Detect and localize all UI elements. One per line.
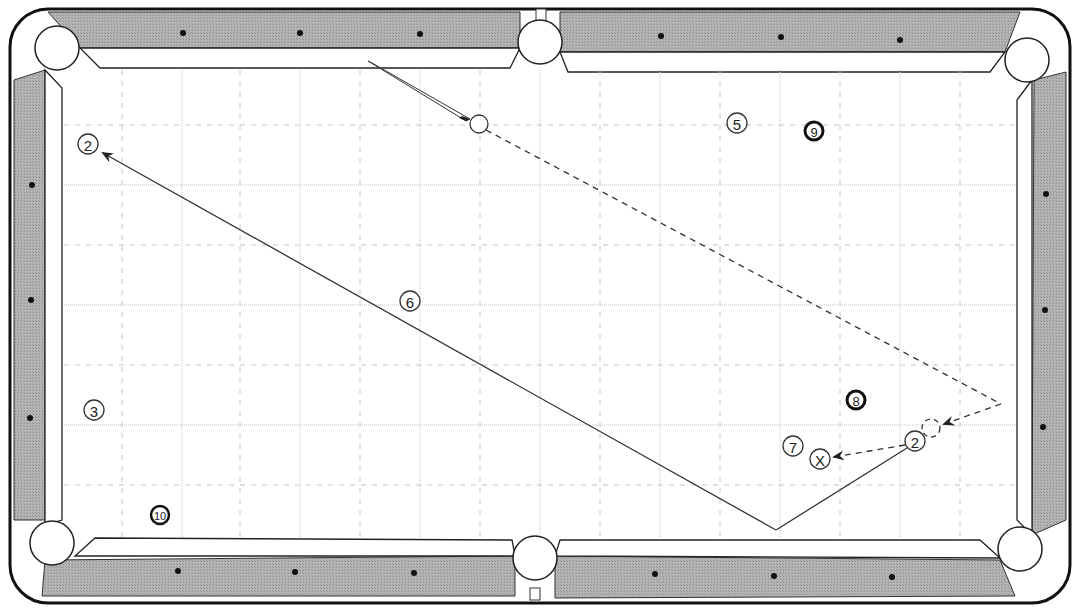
pocket-top-middle (518, 20, 562, 64)
bottom-rail-left (42, 556, 515, 596)
ball-8: 8 (847, 391, 865, 409)
svg-text:7: 7 (789, 439, 797, 456)
svg-text:9: 9 (810, 125, 817, 140)
svg-text:5: 5 (733, 116, 741, 133)
svg-text:6: 6 (406, 294, 414, 311)
svg-text:8: 8 (852, 394, 859, 409)
svg-text:10: 10 (154, 510, 166, 522)
pocket-top-right (1005, 38, 1049, 82)
ball-3: 3 (84, 400, 104, 420)
top-rail-right (560, 12, 1020, 52)
pool-table-diagram: 2 5 9 6 3 8 7 X 2 10 (0, 0, 1075, 610)
ball-10: 10 (151, 506, 169, 524)
ball-2-object: 2 (905, 431, 925, 451)
ball-5: 5 (727, 113, 747, 133)
svg-text:2: 2 (84, 137, 92, 154)
pocket-bottom-middle (513, 536, 557, 580)
ball-7: 7 (783, 436, 803, 456)
ball-6: 6 (400, 291, 420, 311)
ball-x: X (810, 449, 830, 469)
svg-text:2: 2 (911, 434, 919, 451)
right-rail (1032, 72, 1066, 535)
left-rail (14, 70, 45, 520)
ball-9: 9 (805, 122, 823, 140)
svg-text:X: X (815, 452, 825, 469)
pocket-bottom-left (30, 521, 74, 565)
pocket-bottom-right (998, 527, 1042, 571)
top-rail (48, 12, 520, 48)
cue-ball (470, 115, 488, 133)
pocket-top-left (35, 26, 79, 70)
svg-text:3: 3 (90, 403, 98, 420)
bottom-rail-right (555, 556, 1015, 598)
ball-2-start: 2 (78, 134, 98, 154)
